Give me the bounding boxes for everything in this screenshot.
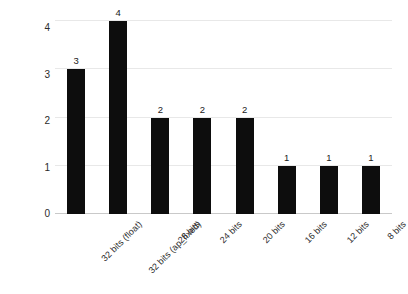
- x-axis-line: [55, 213, 392, 214]
- gridline-2: [55, 117, 392, 118]
- y-tick-label-4: 4: [28, 23, 50, 33]
- bar-value-6: 1: [314, 153, 344, 163]
- y-tick-label-3: 3: [28, 70, 50, 80]
- bar-value-5: 1: [272, 153, 302, 163]
- bar-5: [278, 166, 296, 214]
- y-tick-label-1: 1: [28, 163, 50, 173]
- bar-6: [320, 166, 338, 214]
- x-category-label-0: 32 bits (float): [100, 219, 144, 263]
- x-category-label-6: 12 bits: [345, 219, 371, 245]
- x-category-label-5: 16 bits: [303, 219, 329, 245]
- x-category-label-3: 24 bits: [218, 219, 244, 245]
- bar-value-1: 4: [103, 8, 133, 18]
- x-category-label-4: 20 bits: [260, 219, 286, 245]
- plot-area: 3 4 2 2 2 1 1 1: [55, 20, 392, 214]
- gridline-4: [55, 20, 392, 21]
- bar-0: [67, 69, 85, 214]
- gridline-3: [55, 68, 392, 69]
- y-tick-label-2: 2: [28, 116, 50, 126]
- bar-value-0: 3: [61, 56, 91, 66]
- bar-3: [193, 118, 211, 215]
- bar-1: [109, 21, 127, 214]
- x-category-label-7: 8 bits: [385, 219, 407, 241]
- bar-value-4: 2: [230, 105, 260, 115]
- gridline-1: [55, 165, 392, 166]
- bar-4: [236, 118, 254, 215]
- x-category-label-2: 28 bits: [176, 219, 202, 245]
- bar-value-7: 1: [356, 153, 386, 163]
- bar-value-3: 2: [187, 105, 217, 115]
- bar-2: [151, 118, 169, 215]
- bar-value-2: 2: [145, 105, 175, 115]
- bar-7: [362, 166, 380, 214]
- y-tick-label-0: 0: [28, 209, 50, 219]
